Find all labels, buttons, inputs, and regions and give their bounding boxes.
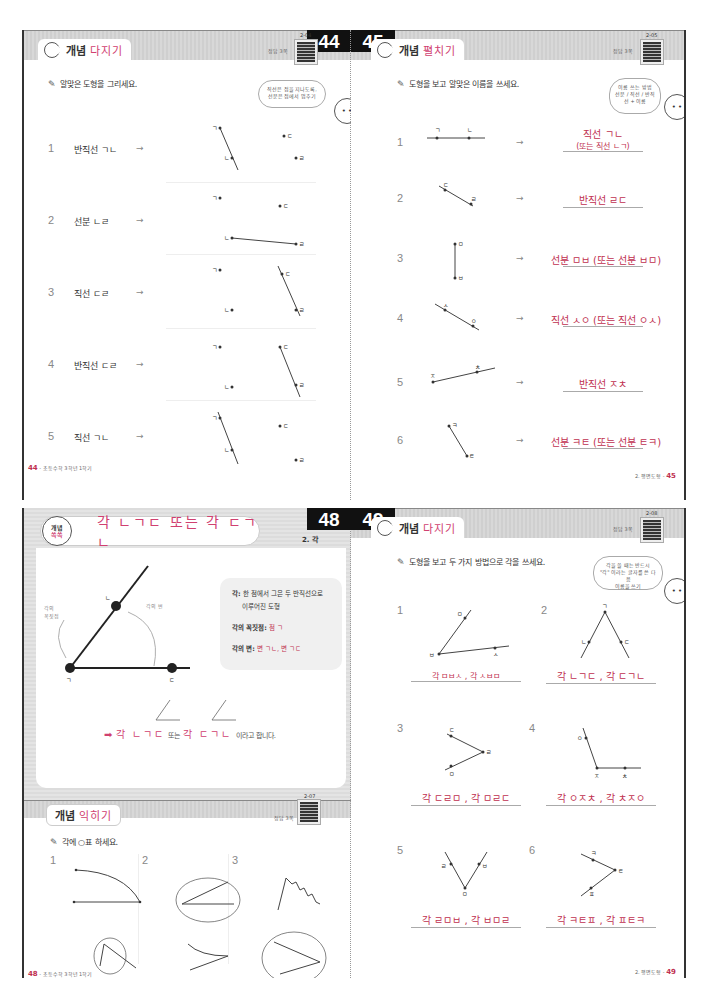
section-prefix: 개념 bbox=[55, 807, 75, 823]
footer-page-number: 48 bbox=[28, 970, 38, 978]
section-prefix: 개념 bbox=[399, 42, 419, 58]
problem-3-figure: ㄱㄴ ㄷㄹ bbox=[194, 262, 314, 332]
problem-5-figure: ㄹㅁㅂ bbox=[441, 848, 501, 898]
svg-text:ㅅ: ㅅ bbox=[443, 301, 449, 308]
section-tab: 개념 다지기 bbox=[371, 517, 464, 539]
definition-text: 한 점에서 그은 두 반직선으로 bbox=[243, 590, 323, 598]
svg-text:ㄷ: ㄷ bbox=[449, 726, 455, 733]
svg-text:ㅊ: ㅊ bbox=[622, 772, 628, 779]
problem-4-figure: ㅇㅈㅊ bbox=[575, 726, 655, 782]
answer-tag: 정답 3쪽 bbox=[613, 47, 633, 54]
problem-number: 5 bbox=[48, 430, 54, 442]
qr-code-icon[interactable] bbox=[641, 40, 663, 64]
svg-text:ㄱ: ㄱ bbox=[435, 126, 441, 133]
qr-code-icon[interactable] bbox=[298, 800, 320, 824]
svg-text:ㄴ: ㄴ bbox=[581, 638, 587, 645]
svg-text:ㄹ: ㄹ bbox=[486, 748, 492, 755]
svg-text:ㄴ: ㄴ bbox=[224, 306, 230, 313]
qr-code-icon[interactable] bbox=[641, 518, 663, 542]
hint-line: 각을 쓸 때는 반드시 bbox=[598, 562, 658, 569]
summary-arrow-icon: ➡ bbox=[104, 729, 112, 740]
svg-text:ㄷ: ㄷ bbox=[287, 132, 293, 139]
definition-angle: 각: 한 점에서 그은 두 반직선으로 이루어진 도형 bbox=[232, 588, 330, 614]
hint-line: 직선은 점을 지나도록, bbox=[263, 86, 321, 93]
svg-text:ㅇ: ㅇ bbox=[471, 317, 477, 324]
svg-text:ㅅ: ㅅ bbox=[493, 650, 499, 657]
concept-title-text: 각 ㄴㄱㄷ 또는 각 ㄷㄱㄴ bbox=[97, 511, 259, 551]
footer-page-number: 45 bbox=[666, 472, 676, 480]
problem-6-figure: ㅋㅌㅍ bbox=[575, 850, 635, 900]
svg-text:ㄹ: ㄹ bbox=[441, 862, 447, 869]
definition-vertex: 각의 꼭짓점: 점 ㄱ bbox=[232, 622, 330, 635]
pencil-icon: ✎ bbox=[48, 79, 56, 89]
pencil-icon: ✎ bbox=[50, 837, 58, 847]
svg-text:ㅂ: ㅂ bbox=[482, 862, 488, 869]
answer-text: 반직선 ㄹㄷ bbox=[563, 192, 643, 208]
arrow-icon: → bbox=[136, 215, 144, 225]
answer-tag: 정답 3쪽 bbox=[268, 47, 288, 54]
problem-1-figure: ㄱㄴ ㄷㄹ bbox=[194, 122, 314, 182]
answer-text: 각 ㅇㅈㅊ , 각 ㅊㅈㅇ bbox=[546, 790, 656, 806]
footer-text: 2. 평면도형 bbox=[635, 473, 661, 479]
qr-code-icon[interactable] bbox=[295, 40, 317, 64]
instruction: ✎ 각에 ○표 하세요. bbox=[50, 836, 118, 847]
problem-3-figure: ㄷㄹㅁ bbox=[441, 728, 501, 778]
svg-text:ㄴ: ㄴ bbox=[467, 126, 473, 133]
mascot-icon: • • bbox=[664, 578, 686, 604]
svg-text:ㅇ: ㅇ bbox=[577, 734, 583, 741]
svg-text:ㅈ: ㅈ bbox=[430, 372, 436, 379]
divider bbox=[166, 400, 316, 401]
page-footer: 2. 평면도형 - 49 bbox=[635, 968, 676, 976]
svg-text:ㄴ: ㄴ bbox=[224, 234, 230, 241]
problem-number: 5 bbox=[397, 844, 403, 856]
svg-text:ㄱ: ㄱ bbox=[212, 266, 218, 273]
practice-figures bbox=[24, 848, 351, 968]
svg-text:ㅌ: ㅌ bbox=[618, 867, 624, 874]
divider bbox=[166, 254, 316, 255]
answer-text: (또는 직선 ㄴㄱ) bbox=[563, 140, 643, 152]
definition-value: 점 ㄱ bbox=[269, 624, 283, 632]
svg-text:ㅁ: ㅁ bbox=[458, 240, 464, 247]
problem-2-figure: ㄱㄴ ㄷㄹ bbox=[194, 190, 314, 260]
definition-text: 이루어진 도형 bbox=[232, 603, 280, 611]
instruction-text: 도형을 보고 알맞은 이름을 쓰세요. bbox=[409, 78, 520, 89]
arrow-icon: → bbox=[516, 377, 524, 387]
svg-text:ㅂ: ㅂ bbox=[429, 651, 435, 658]
problem-number: 1 bbox=[48, 142, 54, 154]
arrow-icon: → bbox=[136, 143, 144, 153]
concept-title: 각 ㄴㄱㄷ 또는 각 ㄷㄱㄴ bbox=[40, 516, 260, 546]
svg-text:ㄱ: ㄱ bbox=[602, 602, 608, 609]
answer-text: 각 ㄴㄱㄷ , 각 ㄷㄱㄴ bbox=[546, 668, 656, 684]
footer-page-number: 49 bbox=[666, 968, 676, 976]
section-title: 펼치기 bbox=[423, 42, 456, 58]
problem-number: 1 bbox=[397, 604, 403, 616]
arrow-icon: → bbox=[516, 253, 524, 263]
answer-underline bbox=[563, 448, 643, 449]
qr-code-label: 2-05 bbox=[646, 32, 657, 38]
instruction: ✎ 도형을 보고 알맞은 이름을 쓰세요. bbox=[397, 78, 519, 89]
qr-code-label: 2-08 bbox=[646, 510, 657, 516]
svg-text:ㅊ: ㅊ bbox=[475, 363, 481, 370]
svg-text:ㄷ: ㄷ bbox=[283, 422, 289, 429]
svg-text:ㄴ: ㄴ bbox=[224, 154, 230, 161]
hint-line: 이름을 쓰기 bbox=[598, 583, 658, 590]
pacman-icon bbox=[377, 42, 393, 58]
problem-2-figure: ㄱㄴㄷ bbox=[567, 604, 647, 664]
section-tab: 개념 펼치기 bbox=[371, 39, 464, 61]
problem-4-figure: ㄱㄴ ㄷㄹ bbox=[194, 335, 314, 405]
answer-text: 선분 ㅋㅌ (또는 선분 ㅌㅋ) bbox=[541, 434, 671, 449]
section-prefix: 개념 bbox=[66, 42, 86, 58]
svg-text:ㄹ: ㄹ bbox=[299, 240, 305, 247]
problem-2-figure: ㄷㄹ bbox=[431, 184, 491, 214]
page-footer: 44 - 초등수학 3학년 1학기 bbox=[28, 464, 92, 472]
instruction: ✎ 알맞은 도형을 그리세요. bbox=[48, 78, 137, 89]
instruction: ✎ 도형을 보고 두 가지 방법으로 각을 쓰세요. bbox=[397, 556, 545, 567]
arrow-icon: → bbox=[136, 359, 144, 369]
pencil-icon: ✎ bbox=[397, 557, 405, 567]
problem-number: 6 bbox=[529, 844, 535, 856]
answer-text: 선분 ㅁㅂ (또는 선분 ㅂㅁ) bbox=[541, 252, 671, 267]
page-footer: 2. 평면도형 - 45 bbox=[635, 472, 676, 480]
problem-label: 반직선 ㄷㄹ bbox=[74, 359, 117, 372]
mascot-icon: • • bbox=[664, 94, 686, 120]
page-footer: 48 - 초등수학 3학년 1학기 bbox=[28, 970, 92, 978]
